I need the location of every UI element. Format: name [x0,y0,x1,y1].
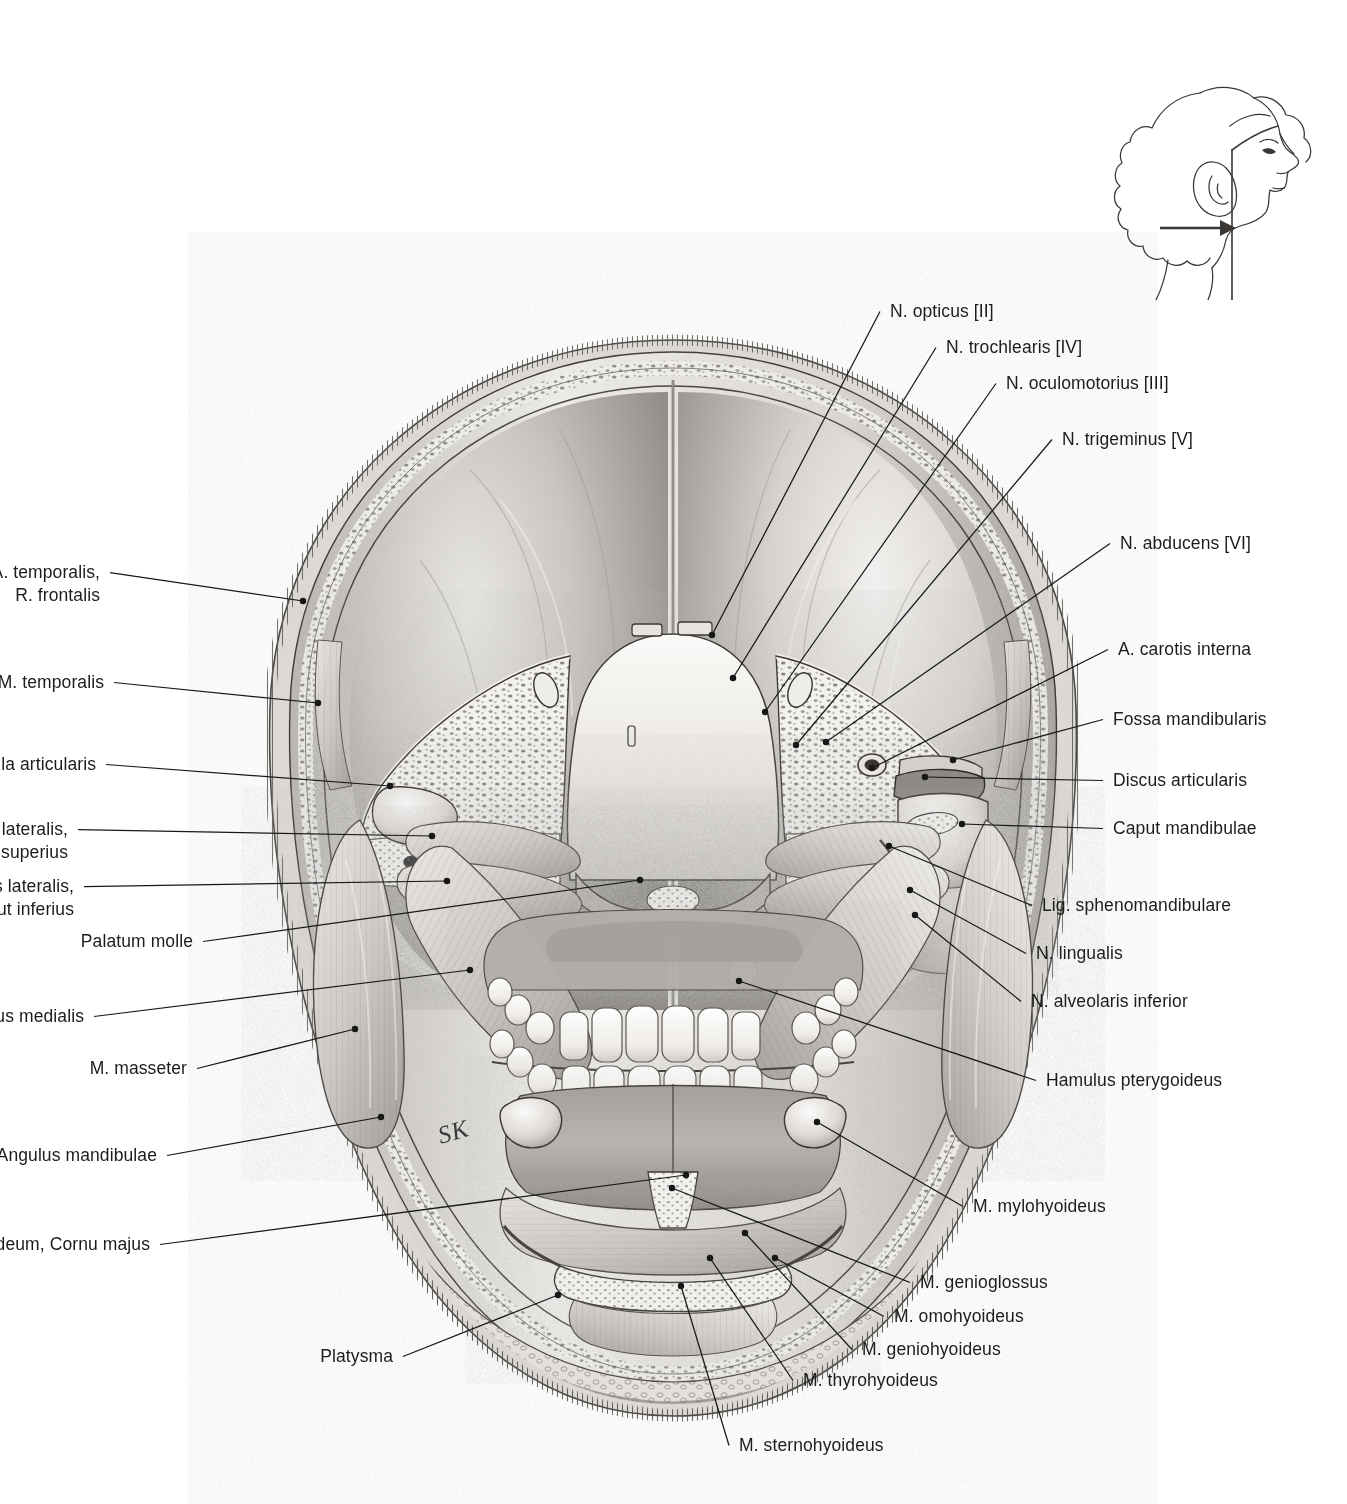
label-m-geniohyoideus: M. geniohyoideus [862,1338,1001,1361]
label-n-alveolaris-inferior: N. alveolaris inferior [1031,990,1188,1013]
label-m-masseter: M. masseter [90,1057,187,1080]
label-n-oculomotorius-iii: N. oculomotorius [III] [1006,372,1169,395]
label-m-pterygoideus-lateralis-caput-superius: M. pterygoideus lateralis, Caput superiu… [0,818,68,864]
anatomical-plate: SK [0,0,1347,1504]
label-m-mylohyoideus: M. mylohyoideus [973,1195,1106,1218]
label-hamulus-pterygoideus: Hamulus pterygoideus [1046,1069,1222,1092]
label-discus-articularis: Discus articularis [1113,769,1247,792]
label-capsula-articularis: Capsula articularis [0,753,96,776]
label-os-hyoideum-cornu-majus: Os hyoideum, Cornu majus [0,1233,150,1256]
label-m-pterygoideus-medialis: M. pterygoideus medialis [0,1005,84,1028]
label-n-abducens-vi: N. abducens [VI] [1120,532,1251,555]
label-angulus-mandibulae: Angulus mandibulae [0,1144,157,1167]
label-lig-sphenomandibulare: Lig. sphenomandibulare [1042,894,1231,917]
label-fossa-mandibularis: Fossa mandibularis [1113,708,1267,731]
orientation-inset [1108,68,1340,300]
label-m-sternohyoideus: M. sternohyoideus [739,1434,884,1457]
view-direction-arrow [1160,220,1236,236]
label-a-temporalis-r-frontalis: A. temporalis, R. frontalis [0,561,100,607]
label-palatum-molle: Palatum molle [81,930,193,953]
label-platysma: Platysma [320,1345,393,1368]
label-m-omohyoideus: M. omohyoideus [894,1305,1024,1328]
label-n-opticus-ii: N. opticus [II] [890,300,994,323]
label-m-temporalis: M. temporalis [0,671,104,694]
label-caput-mandibulae: Caput mandibulae [1113,817,1257,840]
label-a-carotis-interna: A. carotis interna [1118,638,1251,661]
label-n-trochlearis-iv: N. trochlearis [IV] [946,336,1082,359]
label-n-trigeminus-v: N. trigeminus [V] [1062,428,1193,451]
label-m-pterygoideus-lateralis-caput-inferius: M. pterygoideus lateralis, Caput inferiu… [0,875,74,921]
label-n-lingualis: N. lingualis [1036,942,1123,965]
label-m-thyrohyoideus: M. thyrohyoideus [803,1369,938,1392]
label-m-genioglossus: M. genioglossus [920,1271,1048,1294]
